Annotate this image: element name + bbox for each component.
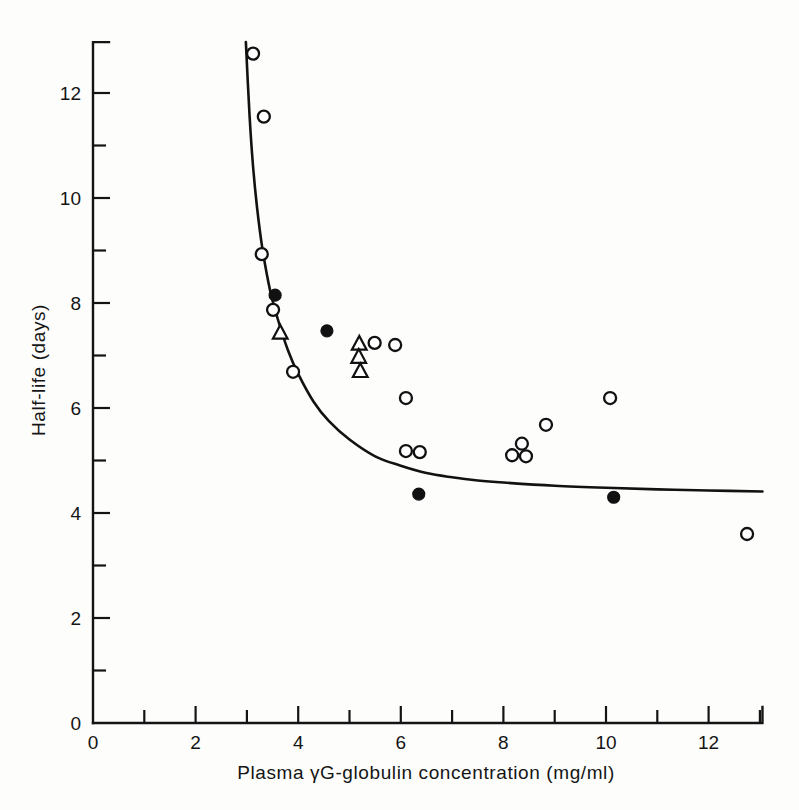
- y-tick-label: 10: [60, 188, 81, 209]
- y-tick-label: 6: [70, 398, 81, 419]
- y-tick-label: 12: [60, 83, 81, 104]
- data-point-filled-circle: [608, 491, 620, 503]
- x-tick-label: 0: [88, 732, 99, 753]
- x-axis-ticks: [144, 706, 760, 723]
- open-circle-markers: [247, 48, 753, 540]
- data-point-open-circle: [389, 339, 401, 351]
- x-axis-title: Plasma γG-globulin concentration (mg/ml): [237, 762, 615, 783]
- fit-curve: [246, 42, 763, 491]
- y-axis-tick-labels: 024681012: [60, 83, 82, 734]
- data-point-open-circle: [400, 392, 412, 404]
- y-tick-label: 2: [70, 608, 81, 629]
- data-point-open-circle: [267, 304, 279, 316]
- figure-container: 024681012 024681012 Plasma γG-globulin c…: [0, 0, 799, 810]
- data-point-open-circle: [540, 419, 552, 431]
- x-tick-label: 6: [396, 732, 407, 753]
- y-tick-label: 0: [70, 713, 81, 734]
- x-axis-line: [93, 707, 762, 723]
- data-point-open-circle: [247, 48, 259, 60]
- filled-circle-markers: [269, 289, 620, 503]
- x-tick-label: 10: [595, 732, 616, 753]
- data-point-filled-circle: [413, 488, 425, 500]
- data-point-triangle: [273, 325, 288, 339]
- x-axis-tick-labels: 024681012: [88, 732, 719, 753]
- data-point-open-circle: [287, 366, 299, 378]
- y-axis-ticks: [93, 93, 110, 671]
- x-tick-label: 2: [190, 732, 201, 753]
- data-point-open-circle: [256, 248, 268, 260]
- data-point-triangle: [353, 363, 368, 377]
- y-tick-label: 8: [70, 293, 81, 314]
- x-tick-label: 8: [498, 732, 509, 753]
- y-axis-title: Half-life (days): [28, 304, 49, 436]
- y-tick-label: 4: [70, 503, 81, 524]
- data-point-open-circle: [516, 438, 528, 450]
- data-point-open-circle: [604, 392, 616, 404]
- data-point-triangle: [352, 336, 367, 350]
- x-tick-label: 4: [293, 732, 304, 753]
- scatter-plot: 024681012 024681012 Plasma γG-globulin c…: [0, 0, 799, 810]
- data-point-open-circle: [741, 528, 753, 540]
- data-point-open-circle: [520, 450, 532, 462]
- data-point-open-circle: [369, 337, 381, 349]
- data-point-open-circle: [506, 449, 518, 461]
- data-point-open-circle: [258, 111, 270, 123]
- data-point-open-circle: [414, 446, 426, 458]
- data-point-filled-circle: [269, 289, 281, 301]
- data-point-open-circle: [400, 445, 412, 457]
- y-axis-line: [93, 42, 109, 723]
- data-point-filled-circle: [321, 325, 333, 337]
- x-tick-label: 12: [698, 732, 719, 753]
- data-point-triangle: [351, 349, 366, 363]
